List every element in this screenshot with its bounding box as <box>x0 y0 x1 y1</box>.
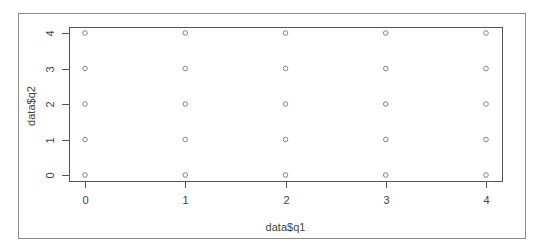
data-point <box>383 66 388 71</box>
data-point <box>283 102 288 107</box>
data-point <box>183 31 188 36</box>
data-point <box>283 66 288 71</box>
y-tick-label: 0 <box>44 172 56 178</box>
data-point <box>83 137 88 142</box>
data-point <box>283 137 288 142</box>
scatter-chart: 01234 01234 data$q1 data$q2 <box>0 0 543 250</box>
data-point <box>484 173 489 178</box>
y-tick-label: 2 <box>44 101 56 107</box>
y-tick-label: 1 <box>44 137 56 143</box>
y-tick-label: 4 <box>44 30 56 36</box>
data-point <box>83 102 88 107</box>
x-axis: 01234 <box>82 181 489 206</box>
data-point <box>183 66 188 71</box>
y-axis: 01234 <box>44 30 69 178</box>
data-point <box>484 66 489 71</box>
x-tick-label: 2 <box>283 194 289 206</box>
x-tick-label: 3 <box>383 194 389 206</box>
y-axis-title: data$q2 <box>25 86 37 126</box>
data-points <box>83 31 489 178</box>
data-point <box>383 102 388 107</box>
data-point <box>83 66 88 71</box>
data-point <box>484 137 489 142</box>
x-tick-label: 1 <box>182 194 188 206</box>
data-point <box>83 31 88 36</box>
x-tick-label: 4 <box>483 194 489 206</box>
data-point <box>283 173 288 178</box>
x-axis-title: data$q1 <box>266 221 306 233</box>
data-point <box>83 173 88 178</box>
data-point <box>484 31 489 36</box>
x-tick-label: 0 <box>82 194 88 206</box>
data-point <box>383 137 388 142</box>
data-point <box>183 137 188 142</box>
data-point <box>183 173 188 178</box>
y-tick-label: 3 <box>44 66 56 72</box>
data-point <box>283 31 288 36</box>
data-point <box>484 102 489 107</box>
data-point <box>383 173 388 178</box>
plot-area-border <box>70 28 503 182</box>
data-point <box>183 102 188 107</box>
data-point <box>383 31 388 36</box>
